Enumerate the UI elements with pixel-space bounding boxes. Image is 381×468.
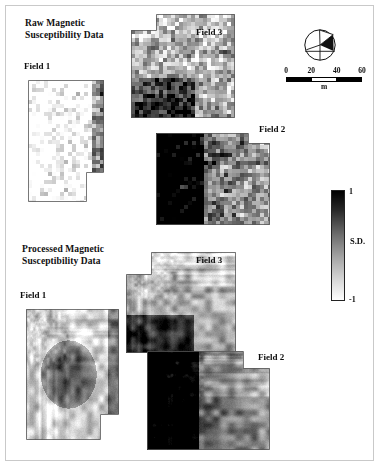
heatmap-raster	[156, 133, 270, 225]
figure-canvas: Raw Magnetic Susceptibility Data Field 1…	[0, 0, 381, 468]
scale-bar-tick-40: 40	[333, 66, 341, 75]
scale-bar-unit-label: m	[283, 82, 365, 91]
raw-field-2-map	[156, 133, 270, 225]
colorbar-min-label: -1	[349, 295, 356, 304]
colorbar-gradient	[331, 190, 345, 301]
scale-bar: 0204060 m	[283, 66, 365, 92]
processed-field-3-label: Field 3	[196, 255, 222, 265]
colorbar-max-label: 1	[349, 187, 353, 196]
colorbar-legend: 1 -1 S.D.	[331, 190, 345, 301]
processed-field-1-map	[26, 309, 119, 440]
processed-field-2-map	[147, 351, 270, 450]
scale-bar-tick-60: 60	[358, 66, 366, 75]
scale-bar-segment-1	[312, 78, 337, 81]
heatmap-raster	[147, 351, 270, 450]
raw-field-1-map	[28, 80, 104, 202]
scale-bar-segment-2	[336, 78, 361, 81]
scale-bar-tick-0: 0	[284, 66, 288, 75]
scale-bar-ticks: 0204060	[283, 66, 365, 76]
raw-field-3-label: Field 3	[196, 27, 222, 37]
processed-field-1-label: Field 1	[20, 290, 46, 300]
heatmap-raster	[28, 80, 104, 202]
heatmap-raster	[26, 309, 119, 440]
colorbar-unit-label: S.D.	[350, 236, 365, 246]
raw-panel-title: Raw Magnetic Susceptibility Data	[25, 17, 104, 41]
heatmap-raster	[126, 252, 236, 353]
raw-field-1-label: Field 1	[24, 61, 50, 71]
scale-bar-segment-0	[287, 78, 312, 81]
processed-field-2-label: Field 2	[258, 352, 284, 362]
processed-panel-title: Processed Magnetic Susceptibility Data	[22, 243, 104, 267]
north-arrow-compass-icon	[303, 28, 337, 62]
processed-field-3-map	[126, 252, 236, 353]
scale-bar-tick-20: 20	[308, 66, 316, 75]
raw-field-2-label: Field 2	[259, 124, 285, 134]
